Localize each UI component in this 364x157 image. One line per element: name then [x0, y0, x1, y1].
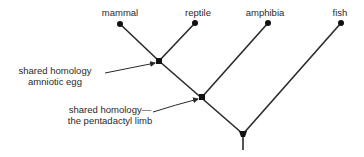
node-amniote	[156, 58, 162, 64]
tip-mammal	[117, 21, 123, 27]
branch-reptile	[159, 23, 195, 61]
arrow-pentadactyl	[153, 99, 198, 112]
tip-fish	[338, 20, 344, 26]
label-reptile: reptile	[185, 7, 211, 18]
annotation-pentadactyl-line2: the pentadactyl limb	[68, 115, 153, 126]
branch-amphibia	[202, 23, 268, 97]
tip-reptile	[192, 20, 198, 26]
cladogram: mammal reptile amphibia fish shared homo…	[0, 0, 364, 157]
node-tetrapod	[199, 94, 205, 100]
label-amphibia: amphibia	[246, 7, 285, 18]
node-root	[239, 131, 247, 137]
annotation-pentadactyl-line1: shared homology—	[69, 104, 152, 115]
annotation-amniotic-line1: shared homology	[19, 65, 92, 76]
arrow-amniotic	[105, 63, 155, 73]
label-fish: fish	[333, 7, 348, 18]
label-mammal: mammal	[102, 7, 138, 18]
tip-amphibia	[265, 20, 271, 26]
branch-fish	[243, 23, 341, 134]
annotation-amniotic-line2: amniotic egg	[28, 76, 82, 87]
branch-mammal	[120, 24, 159, 61]
